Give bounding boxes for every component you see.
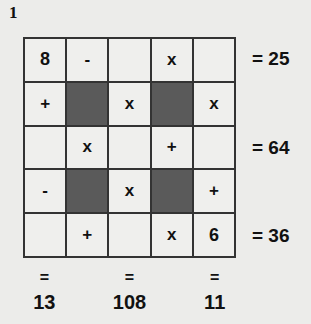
operator-cell: + — [66, 213, 108, 257]
column-result-value: 11 — [185, 292, 245, 312]
blocked-cell — [151, 82, 193, 126]
operator-cell: x — [151, 213, 193, 257]
operator-cell: - — [66, 38, 108, 82]
operator-cell: x — [66, 126, 108, 170]
column-result: =13 — [14, 270, 74, 312]
operator-cell: x — [108, 169, 150, 213]
operator-cell: x — [193, 82, 235, 126]
column-result-value: 13 — [14, 292, 74, 312]
empty-number-cell[interactable] — [108, 213, 150, 257]
equals-sign: = — [100, 270, 160, 286]
given-number-cell: 6 — [193, 213, 235, 257]
puzzle-grid: 8-x+xxx+-x++x6 — [23, 37, 236, 258]
column-result: =11 — [185, 270, 245, 312]
operator-cell: - — [24, 169, 66, 213]
column-result: =108 — [100, 270, 160, 312]
empty-number-cell[interactable] — [108, 38, 150, 82]
puzzle-number: 1 — [9, 3, 18, 23]
operator-cell: + — [193, 169, 235, 213]
empty-number-cell[interactable] — [193, 38, 235, 82]
empty-number-cell[interactable] — [193, 126, 235, 170]
row-result: = 25 — [252, 49, 290, 68]
empty-number-cell[interactable] — [108, 126, 150, 170]
blocked-cell — [66, 169, 108, 213]
operator-cell: x — [108, 82, 150, 126]
given-number-cell: 8 — [24, 38, 66, 82]
column-result-value: 108 — [100, 292, 160, 312]
blocked-cell — [66, 82, 108, 126]
operator-cell: + — [24, 82, 66, 126]
operator-cell: + — [151, 126, 193, 170]
row-result: = 36 — [252, 226, 290, 245]
equals-sign: = — [14, 270, 74, 286]
row-result: = 64 — [252, 138, 290, 157]
equals-sign: = — [185, 270, 245, 286]
blocked-cell — [151, 169, 193, 213]
empty-number-cell[interactable] — [24, 126, 66, 170]
empty-number-cell[interactable] — [24, 213, 66, 257]
operator-cell: x — [151, 38, 193, 82]
